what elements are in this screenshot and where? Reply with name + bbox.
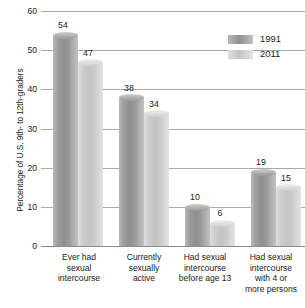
gridline-0-baseline — [41, 246, 305, 247]
bar-2011-ever-had-sexual-intercourse[interactable] — [78, 62, 103, 246]
category-line: Had sexual — [238, 252, 304, 263]
bar-value-1991-group3: 10 — [178, 192, 212, 202]
bar-cap — [276, 184, 301, 191]
bar-chart: Percentage of U.S. 9th- to 12th-graders … — [0, 0, 305, 308]
category-line: intercourse — [238, 263, 304, 274]
category-line: intercourse — [44, 273, 114, 284]
bar-value-2011-group3: 6 — [203, 208, 237, 218]
bar-1991-had-sexual-intercourse-with-4-or-more-persons[interactable] — [251, 172, 276, 246]
category-line: Currently — [113, 252, 175, 263]
category-line: with 4 or — [238, 273, 304, 284]
bar-cap — [210, 220, 235, 227]
legend-item-1991[interactable]: 1991 — [228, 33, 302, 48]
x-axis-category-label-2: Currently sexually active — [113, 252, 175, 284]
gridline-60 — [41, 11, 305, 12]
legend-swatch-icon-2011 — [228, 50, 253, 59]
category-line: more persons — [238, 284, 304, 295]
bar-cap — [144, 110, 169, 117]
category-line: sexually — [113, 263, 175, 274]
bar-1991-ever-had-sexual-intercourse[interactable] — [53, 35, 78, 247]
y-tick-label-30: 30 — [11, 124, 37, 134]
category-line: intercourse — [172, 263, 238, 274]
bar-cap — [53, 32, 78, 39]
legend-item-2011[interactable]: 2011 — [228, 48, 302, 63]
y-tick-label-20: 20 — [11, 163, 37, 173]
y-tick-label-50: 50 — [11, 45, 37, 55]
y-tick-label-40: 40 — [11, 84, 37, 94]
legend-swatch-icon-1991 — [228, 35, 253, 44]
bar-value-2011-group4: 15 — [269, 173, 303, 183]
category-line: Had sexual — [172, 252, 238, 263]
bar-2011-had-sexual-intercourse-with-4-or-more-persons[interactable] — [276, 187, 301, 246]
bar-value-2011-group1: 47 — [71, 48, 105, 58]
category-line: before age 13 — [172, 273, 238, 284]
bar-1991-currently-sexually-active[interactable] — [119, 97, 144, 246]
x-axis-category-label-3: Had sexual intercourse before age 13 — [172, 252, 238, 284]
bar-value-1991-group2: 38 — [112, 83, 146, 93]
x-axis-category-label-4: Had sexual intercourse with 4 or more pe… — [238, 252, 304, 294]
category-line: sexual — [44, 263, 114, 274]
y-axis-title: Percentage of U.S. 9th- to 12th-graders — [15, 25, 25, 255]
x-axis-category-label-1: Ever had sexual intercourse — [44, 252, 114, 284]
bar-value-2011-group2: 34 — [137, 99, 171, 109]
category-line: active — [113, 273, 175, 284]
bar-2011-currently-sexually-active[interactable] — [144, 113, 169, 246]
bar-2011-had-sexual-intercourse-before-age-13[interactable] — [210, 223, 235, 247]
legend: 1991 2011 — [228, 33, 302, 63]
y-tick-label-10: 10 — [11, 202, 37, 212]
bar-value-1991-group1: 54 — [46, 20, 80, 30]
legend-label-1991: 1991 — [260, 33, 281, 44]
y-tick-label-60: 60 — [11, 6, 37, 16]
bar-cap — [78, 59, 103, 66]
y-tick-label-0: 0 — [11, 241, 37, 251]
category-line: Ever had — [44, 252, 114, 263]
legend-label-2011: 2011 — [260, 48, 280, 59]
bar-value-1991-group4: 19 — [244, 157, 278, 167]
